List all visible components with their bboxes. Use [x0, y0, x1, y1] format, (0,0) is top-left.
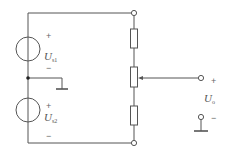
- resistor-top: [131, 29, 138, 48]
- resistor-bottom: [131, 106, 138, 125]
- source-1-minus: −: [46, 63, 51, 73]
- output-label: Uo: [204, 92, 215, 105]
- output-minus: −: [211, 113, 216, 123]
- wiper-arrow-icon: [138, 76, 143, 80]
- source-2-label: Us2: [44, 111, 57, 124]
- junction-dot: [26, 76, 30, 80]
- source-2-minus: −: [46, 131, 51, 141]
- circuit-diagram: + Us1 − + Us2 − + Uo −: [0, 0, 229, 157]
- source-2-plus: +: [46, 101, 51, 111]
- source-1-plus: +: [46, 31, 51, 41]
- source-1-label: Us1: [44, 50, 57, 63]
- output-terminal-minus: [198, 114, 203, 119]
- output-plus: +: [211, 76, 216, 86]
- potentiometer: [131, 67, 138, 87]
- terminal-top: [131, 10, 136, 15]
- wires: [28, 13, 134, 143]
- terminal-bottom: [131, 140, 136, 145]
- output-terminal-plus: [198, 75, 203, 80]
